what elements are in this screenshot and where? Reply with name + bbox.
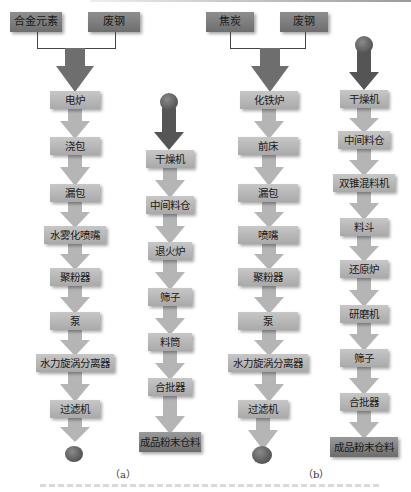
down-arrow-icon bbox=[60, 109, 90, 139]
down-arrow-icon bbox=[254, 155, 284, 186]
end-ball-icon bbox=[65, 446, 83, 462]
step-pump: 泵 bbox=[238, 312, 298, 330]
step-filter: 过滤机 bbox=[238, 400, 288, 418]
down-arrow-icon bbox=[349, 192, 379, 220]
final-product-powder-bin: 成品粉末仓料 bbox=[139, 432, 201, 452]
step-reduction-furnace: 还原炉 bbox=[340, 260, 388, 278]
down-arrow-icon bbox=[349, 236, 379, 262]
source-box-scrap-steel: 废钢 bbox=[280, 12, 328, 32]
down-arrow-icon bbox=[60, 418, 90, 442]
final-product-powder-bin: 成品粉末仓料 bbox=[330, 437, 398, 457]
down-arrow-icon bbox=[60, 244, 90, 270]
step-annealing-furnace: 退火炉 bbox=[148, 242, 192, 260]
step-tundish: 漏包 bbox=[238, 184, 298, 202]
source-merge-bracket bbox=[230, 32, 306, 49]
step-hydrocyclone: 水力旋涡分离器 bbox=[36, 354, 114, 372]
source-box-alloy-elements: 合金元素 bbox=[10, 12, 62, 32]
step-hydrocyclone: 水力旋涡分离器 bbox=[228, 354, 308, 372]
merge-arrow-icon bbox=[56, 48, 94, 92]
step-dryer: 干燥机 bbox=[146, 150, 194, 168]
source-merge-bracket bbox=[37, 32, 116, 49]
diagram-b-label: （b） bbox=[303, 466, 329, 481]
down-arrow-icon bbox=[349, 108, 379, 133]
down-arrow-icon bbox=[349, 149, 379, 176]
down-arrow-icon bbox=[155, 396, 185, 434]
step-cupola: 化铁炉 bbox=[240, 91, 298, 109]
end-ball-icon bbox=[252, 446, 272, 464]
step-grinder: 研磨机 bbox=[340, 305, 388, 323]
merge-arrow-icon bbox=[251, 48, 289, 92]
source-box-coke: 焦炭 bbox=[206, 12, 254, 32]
start-ball-icon bbox=[160, 93, 178, 111]
source-box-scrap-steel: 废钢 bbox=[88, 12, 140, 32]
down-arrow-icon bbox=[60, 330, 90, 356]
down-arrow-icon bbox=[254, 202, 284, 228]
step-nozzle: 喷嘴 bbox=[238, 226, 298, 244]
step-intermediate-bin: 中间料仓 bbox=[338, 131, 390, 149]
down-arrow-icon bbox=[155, 260, 185, 290]
step-blender: 合批器 bbox=[148, 378, 192, 396]
dark-down-arrow-icon bbox=[349, 50, 379, 90]
down-arrow-icon bbox=[254, 372, 284, 402]
step-powder-collector: 聚粉器 bbox=[50, 268, 100, 286]
step-water-atomizing-nozzle: 水雾化喷嘴 bbox=[44, 226, 106, 244]
down-arrow-icon bbox=[60, 155, 90, 186]
down-arrow-icon bbox=[155, 214, 185, 244]
down-arrow-icon bbox=[60, 202, 90, 228]
down-arrow-icon bbox=[155, 168, 185, 198]
down-arrow-icon bbox=[60, 372, 90, 402]
down-arrow-icon bbox=[349, 411, 379, 439]
step-electric-furnace: 电炉 bbox=[50, 91, 100, 109]
diagram-a-label: （a） bbox=[110, 466, 136, 481]
step-intermediate-bin: 中间料仓 bbox=[146, 196, 194, 214]
step-hopper-drum: 料筒 bbox=[148, 333, 192, 351]
step-blender: 合批器 bbox=[340, 393, 388, 411]
step-pump: 泵 bbox=[50, 312, 100, 330]
down-arrow-icon bbox=[155, 306, 185, 335]
down-arrow-icon bbox=[349, 278, 379, 307]
dark-down-arrow-icon bbox=[154, 108, 184, 150]
start-ball-icon bbox=[355, 36, 373, 54]
step-sieve: 筛子 bbox=[340, 349, 388, 367]
down-arrow-icon bbox=[349, 323, 379, 351]
down-arrow-icon bbox=[349, 367, 379, 395]
step-filter: 过滤机 bbox=[50, 400, 100, 418]
down-arrow-icon bbox=[254, 244, 284, 270]
down-arrow-icon bbox=[254, 109, 284, 139]
step-forehearth: 前床 bbox=[238, 137, 298, 155]
step-sieve: 筛子 bbox=[148, 288, 192, 306]
step-powder-collector: 聚粉器 bbox=[238, 268, 298, 286]
down-arrow-icon bbox=[60, 286, 90, 314]
faded-caption-line bbox=[40, 484, 380, 487]
down-arrow-icon bbox=[254, 286, 284, 314]
step-tundish: 漏包 bbox=[50, 184, 100, 202]
down-arrow-icon bbox=[254, 330, 284, 356]
step-double-cone-mixer: 双锥混料机 bbox=[333, 174, 395, 192]
step-dryer: 干燥机 bbox=[340, 90, 388, 108]
step-ladle: 浇包 bbox=[50, 137, 100, 155]
down-arrow-icon bbox=[155, 351, 185, 380]
step-hopper: 料斗 bbox=[340, 218, 388, 236]
top-border-line bbox=[90, 0, 411, 2]
